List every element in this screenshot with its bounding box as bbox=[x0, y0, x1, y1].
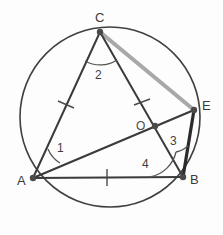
angle-label-4: 4 bbox=[142, 157, 149, 171]
vertex-dot-C bbox=[97, 29, 103, 35]
angle-label-3: 3 bbox=[170, 134, 177, 148]
segment-EB bbox=[183, 110, 194, 177]
vertex-label-E: E bbox=[202, 98, 211, 113]
angle-arc-2 bbox=[85, 60, 117, 65]
vertex-dot-B bbox=[180, 174, 186, 180]
vertex-dot-A bbox=[30, 175, 36, 181]
vertex-label-C: C bbox=[95, 10, 104, 25]
angle-label-1: 1 bbox=[57, 141, 64, 155]
segment-CE bbox=[100, 32, 194, 110]
geometry-canvas: A B C E O 1 2 3 4 bbox=[0, 0, 223, 235]
vertex-dot-O bbox=[152, 123, 158, 129]
vertex-label-B: B bbox=[190, 172, 199, 187]
center-label-O: O bbox=[136, 119, 145, 133]
vertex-dot-E bbox=[191, 107, 197, 113]
angle-label-2: 2 bbox=[95, 68, 102, 82]
angle-arc-4 bbox=[150, 152, 176, 177]
geometry-diagram: A B C E O 1 2 3 4 bbox=[0, 0, 223, 235]
segment-CB bbox=[100, 32, 183, 177]
segment-AB bbox=[33, 177, 183, 178]
vertex-label-A: A bbox=[17, 173, 26, 188]
circumscribed-circle bbox=[20, 27, 200, 207]
